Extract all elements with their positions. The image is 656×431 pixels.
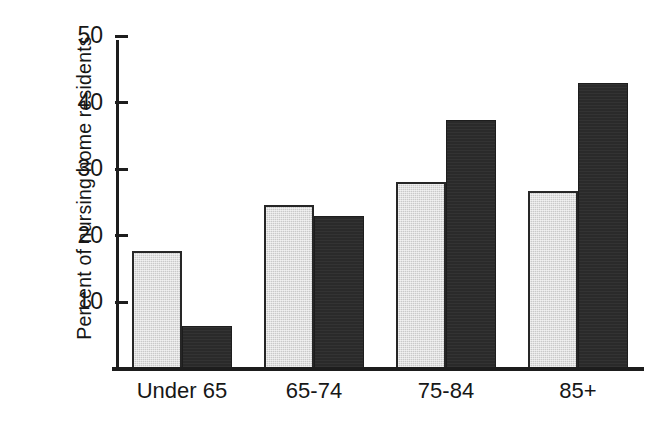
y-axis-tick: 40: [115, 101, 128, 104]
y-axis-tick-label: 30: [77, 157, 103, 180]
y-axis-spine: [116, 40, 119, 370]
bar-light-series-75-84: [396, 182, 446, 367]
y-axis-tick-label: 10: [77, 290, 103, 313]
y-axis-tick: 30: [115, 168, 128, 171]
bar-dark-series-85-: [578, 83, 628, 367]
y-axis-tick-label: 20: [77, 224, 103, 247]
x-axis-spine: [112, 367, 644, 371]
y-axis-tick: 50: [115, 35, 128, 38]
plot-area: 1020304050 Under 6565-7475-8485+: [116, 34, 644, 370]
bar-chart: Percent of nursing home residents 102030…: [0, 0, 656, 431]
bar-light-series-85-: [528, 191, 578, 367]
y-axis-tick-label: 50: [77, 24, 103, 47]
x-axis-category-label: Under 65: [110, 380, 254, 402]
y-axis-title: Percent of nursing home residents: [56, 0, 112, 378]
x-axis-category-label: 65-74: [242, 380, 386, 402]
y-axis-tick-label: 40: [77, 91, 103, 114]
y-axis-tick: 10: [115, 301, 128, 304]
x-axis-category-label: 85+: [506, 380, 650, 402]
bar-dark-series-75-84: [446, 120, 496, 367]
bar-light-series-65-74: [264, 205, 314, 367]
y-axis-tick: 20: [115, 234, 128, 237]
bar-dark-series-under-65: [182, 326, 232, 367]
bar-light-series-under-65: [132, 251, 182, 367]
x-axis-category-label: 75-84: [374, 380, 518, 402]
bar-dark-series-65-74: [314, 216, 364, 368]
